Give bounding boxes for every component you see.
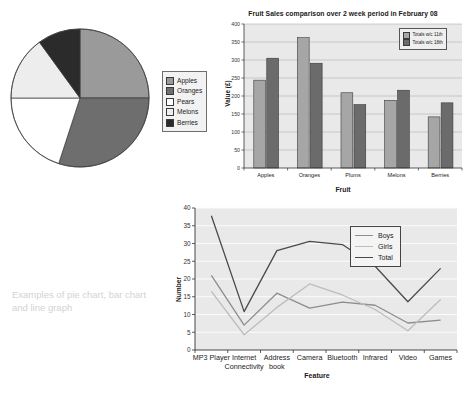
line-y-tick-5: 5 <box>187 329 191 336</box>
line-legend-swatch-boys <box>355 235 373 236</box>
bar-berries-series1 <box>428 117 440 168</box>
bar-y-tick-labels: 050100150200250300350400 <box>231 21 244 171</box>
pie-legend-item-berries: Berries <box>166 118 202 128</box>
pie-legend-swatch-melons <box>166 108 174 116</box>
bar-y-tick-150: 150 <box>231 111 240 117</box>
bar-oranges-series1 <box>297 38 309 168</box>
bar-apples-series2 <box>267 58 279 168</box>
bar-legend-label-week18: Totals w/c 18th <box>413 40 443 46</box>
line-legend: Boys Girls Total <box>350 226 401 267</box>
bar-melons-series1 <box>385 100 397 168</box>
line-x-tick-labels: MP3 PlayerInternetConnectivityAddressboo… <box>193 350 457 371</box>
line-x-tick-bluetooth: Bluetooth <box>327 353 357 362</box>
bar-legend-label-week11: Totals w/c 11th <box>413 32 443 38</box>
line-legend-swatch-girls <box>355 246 373 247</box>
bar-y-tick-350: 350 <box>231 39 240 45</box>
line-legend-item-girls: Girls <box>355 241 394 252</box>
bar-x-tick-plums: Plums <box>345 172 361 178</box>
pie-chart: Apples Oranges Pears Melons Berries <box>4 10 214 190</box>
pie-legend-label-berries: Berries <box>177 119 198 127</box>
bar-x-tick-apples: Apples <box>257 172 274 178</box>
pie-legend-swatch-berries <box>166 119 174 127</box>
line-legend-item-boys: Boys <box>355 230 394 241</box>
line-chart: 0510152025303540 MP3 PlayerInternetConne… <box>163 198 471 392</box>
line-legend-item-total: Total <box>355 252 394 263</box>
line-legend-swatch-total <box>355 257 373 258</box>
line-y-tick-labels: 0510152025303540 <box>183 204 195 353</box>
pie-legend-label-pears: Pears <box>177 98 194 106</box>
pie-legend-item-apples: Apples <box>166 76 202 86</box>
line-x-tick-mp3-player: MP3 Player <box>193 353 231 362</box>
line-legend-label-boys: Boys <box>378 231 394 240</box>
line-y-tick-40: 40 <box>183 204 191 211</box>
line-x-tick-games: Games <box>429 353 453 362</box>
bar-x-tick-berries: Berries <box>431 172 449 178</box>
line-legend-label-total: Total <box>378 253 393 262</box>
line-y-tick-15: 15 <box>183 293 191 300</box>
line-x-tick-camera: Camera <box>297 353 323 362</box>
line-y-tick-10: 10 <box>183 311 191 318</box>
bar-y-tick-400: 400 <box>231 21 240 27</box>
pie-slice-apples <box>80 29 149 98</box>
line-x-tick-video: Video <box>399 353 417 362</box>
bar-melons-series2 <box>398 90 410 168</box>
line-x-axis-label: Feature <box>163 372 471 379</box>
bar-legend: Totals w/c 11th Totals w/c 18th <box>399 28 447 50</box>
bar-x-tick-melons: Melons <box>388 172 406 178</box>
bar-plums-series1 <box>341 93 353 168</box>
bar-y-tick-300: 300 <box>231 57 240 63</box>
bar-x-axis-label: Fruit <box>214 186 472 193</box>
bar-legend-swatch-week11 <box>403 32 410 39</box>
bar-y-axis-label: Value (£) <box>224 69 231 119</box>
bar-y-tick-0: 0 <box>237 165 240 171</box>
bar-legend-item-week11: Totals w/c 11th <box>403 32 443 39</box>
pie-legend: Apples Oranges Pears Melons Berries <box>162 71 207 132</box>
bar-legend-item-week18: Totals w/c 18th <box>403 39 443 46</box>
pie-legend-item-oranges: Oranges <box>166 86 202 96</box>
bar-chart: Fruit Sales comparison over 2 week perio… <box>214 6 472 198</box>
bar-apples-series1 <box>254 80 266 168</box>
bar-oranges-series2 <box>310 63 322 168</box>
pie-legend-label-melons: Melons <box>177 108 198 116</box>
line-y-tick-0: 0 <box>187 346 191 353</box>
bar-legend-swatch-week18 <box>403 39 410 46</box>
line-chart-graphic: 0510152025303540 MP3 PlayerInternetConne… <box>163 198 471 392</box>
line-x-tick-internet-connectivity: Connectivity <box>225 362 265 371</box>
pie-legend-item-pears: Pears <box>166 97 202 107</box>
bar-berries-series2 <box>441 103 453 168</box>
bar-x-tick-oranges: Oranges <box>299 172 321 178</box>
figure-caption: Examples of pie chart, bar chart and lin… <box>12 288 157 314</box>
bar-y-tick-50: 50 <box>234 147 240 153</box>
bar-y-tick-200: 200 <box>231 93 240 99</box>
line-y-tick-35: 35 <box>183 222 191 229</box>
pie-legend-swatch-apples <box>166 77 174 85</box>
bar-plums-series2 <box>354 105 366 168</box>
line-x-tick-address-book: book <box>269 362 285 371</box>
bar-x-tick-labels: ApplesOrangesPlumsMelonsBerries <box>244 168 462 178</box>
pie-legend-item-melons: Melons <box>166 107 202 117</box>
bar-y-tick-250: 250 <box>231 75 240 81</box>
line-x-tick-address-book: Address <box>264 353 291 362</box>
figure-canvas: Apples Oranges Pears Melons Berries Frui… <box>0 0 474 394</box>
line-legend-label-girls: Girls <box>378 242 392 251</box>
pie-legend-swatch-pears <box>166 98 174 106</box>
bar-y-tick-100: 100 <box>231 129 240 135</box>
line-y-tick-30: 30 <box>183 240 191 247</box>
line-x-tick-infrared: Infrared <box>363 353 388 362</box>
line-y-tick-25: 25 <box>183 258 191 265</box>
pie-legend-swatch-oranges <box>166 87 174 95</box>
pie-legend-label-oranges: Oranges <box>177 87 202 95</box>
line-x-tick-internet-connectivity: Internet <box>232 353 256 362</box>
pie-slice-group <box>11 29 149 167</box>
pie-legend-label-apples: Apples <box>177 77 197 85</box>
line-y-tick-20: 20 <box>183 275 191 282</box>
line-y-axis-label: Number <box>175 263 182 317</box>
